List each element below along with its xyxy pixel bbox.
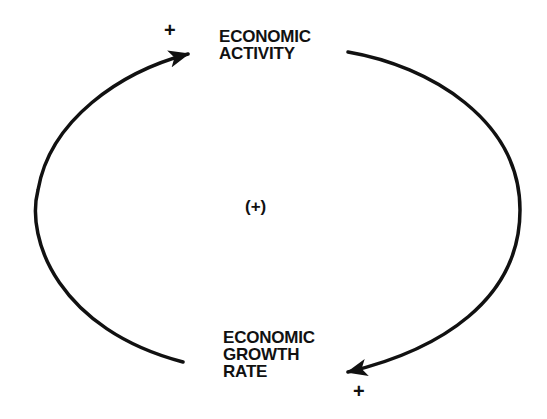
loop-polarity-label: (+) bbox=[245, 198, 266, 215]
node-label-line: ECONOMIC bbox=[219, 28, 311, 45]
node-label-line: GROWTH bbox=[223, 346, 315, 363]
node-economic-activity: ECONOMIC ACTIVITY bbox=[219, 28, 311, 62]
node-label-line: ECONOMIC bbox=[223, 329, 315, 346]
link-polarity-top: + bbox=[164, 20, 176, 40]
node-economic-growth-rate: ECONOMIC GROWTH RATE bbox=[223, 329, 315, 380]
link-arrow-activity-to-growth bbox=[348, 52, 520, 372]
link-arrow-growth-to-activity bbox=[35, 54, 188, 362]
link-polarity-bottom: + bbox=[353, 381, 365, 401]
node-label-line: ACTIVITY bbox=[219, 45, 311, 62]
node-label-line: RATE bbox=[223, 363, 315, 380]
